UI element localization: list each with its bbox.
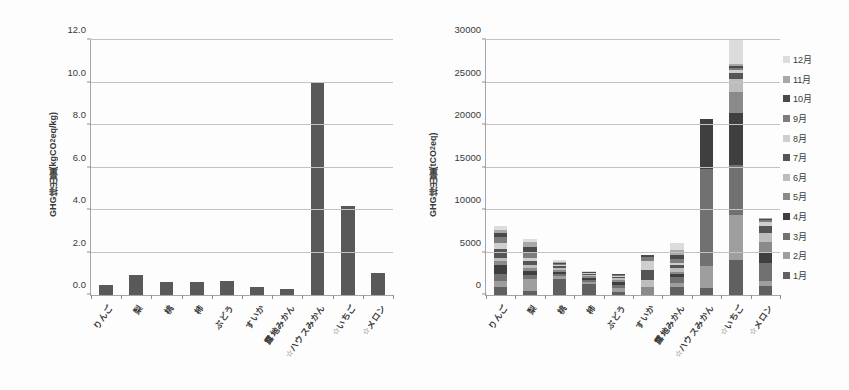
right-segment-1月[interactable] [729,260,743,295]
right-bar-slot[interactable] [545,40,574,295]
left-bar-slot[interactable] [333,40,363,295]
right-segment-8月[interactable] [641,261,655,269]
right-bar-slot[interactable] [633,40,662,295]
month-legend-item-5月[interactable]: 5月 [783,187,812,207]
right-bar-柿[interactable] [582,271,596,295]
right-segment-2月[interactable] [700,266,714,288]
right-bar-桃[interactable] [553,260,567,295]
left-bar-りんご[interactable] [99,285,113,295]
right-segment-1月[interactable] [670,287,684,295]
left-bar-☆いちご[interactable] [341,206,355,295]
right-segment-2月[interactable] [729,215,743,260]
left-bar-ぶどう[interactable] [220,281,234,295]
left-xlabel-りんご: りんご [90,302,115,331]
right-segment-1月[interactable] [582,284,596,295]
left-ytick-label: 10.0 [68,66,87,77]
right-bar-slot[interactable] [692,40,721,295]
left-bar-slot[interactable] [242,40,272,295]
left-xlabel-梨: 梨 [130,302,145,316]
right-gridline [486,209,780,210]
right-segment-3月[interactable] [729,165,743,215]
right-segment-1月[interactable] [553,279,567,295]
right-bar-slot[interactable] [515,40,544,295]
right-segment-12月[interactable] [729,39,743,64]
month-legend-item-10月[interactable]: 10月 [783,89,812,109]
right-segment-7月[interactable] [494,249,508,257]
right-segment-3月[interactable] [494,274,508,282]
month-legend-item-9月[interactable]: 9月 [783,109,812,129]
left-bar-☆メロン[interactable] [371,273,385,295]
left-gridline [91,167,393,168]
left-bar-slot[interactable] [182,40,212,295]
month-legend-item-4月[interactable]: 4月 [783,207,812,227]
right-bar-slot[interactable] [574,40,603,295]
left-ytick-mark [87,209,91,210]
month-legend-label: 4月 [793,210,807,223]
left-ytick-label: 8.0 [73,109,86,120]
right-xtick-mark [721,295,722,299]
right-segment-4月[interactable] [729,113,743,165]
month-legend-item-11月[interactable]: 11月 [783,70,812,90]
right-bar-ぶどう[interactable] [612,273,626,295]
right-bar-slot[interactable] [721,40,750,295]
month-legend-item-3月[interactable]: 3月 [783,226,812,246]
month-legend-item-7月[interactable]: 7月 [783,148,812,168]
month-legend-swatch-icon [783,95,790,102]
month-legend-item-2月[interactable]: 2月 [783,246,812,266]
right-bar-☆メロン[interactable] [759,218,773,295]
month-legend-item-1月[interactable]: 1月 [783,266,812,286]
right-bar-slot[interactable] [662,40,691,295]
left-bar-slot[interactable] [212,40,242,295]
right-segment-4月[interactable] [700,119,714,169]
left-bar-桃[interactable] [160,282,174,295]
right-bar-slot[interactable] [751,40,780,295]
right-segment-7月[interactable] [759,226,773,233]
left-bar-slot[interactable] [363,40,393,295]
right-segment-4月[interactable] [759,253,773,263]
left-bar-slot[interactable] [272,40,302,295]
left-bar-slot[interactable] [151,40,181,295]
right-segment-1月[interactable] [612,292,626,295]
left-bar-☆ハウスみかん[interactable] [311,83,325,296]
right-bar-りんご[interactable] [494,226,508,295]
left-ytick-mark [87,166,91,167]
right-gridline [486,82,780,83]
left-bar-slot[interactable] [121,40,151,295]
left-ytick-mark [87,124,91,125]
right-bar-梨[interactable] [523,239,537,295]
month-legend-item-8月[interactable]: 8月 [783,128,812,148]
month-legend-item-6月[interactable]: 6月 [783,168,812,188]
right-ytick-label: 0 [476,279,481,290]
right-segment-1月[interactable] [523,291,537,295]
right-bar-すいか[interactable] [641,255,655,295]
left-ytick-mark [87,39,91,40]
left-xtick-mark [302,295,303,299]
right-segment-5月[interactable] [641,287,655,295]
right-segment-6月[interactable] [759,233,773,242]
left-bar-梨[interactable] [129,275,143,295]
right-segment-1月[interactable] [759,286,773,295]
right-ytick-label: 30000 [455,24,481,35]
right-bar-slot[interactable] [486,40,515,295]
right-segment-1月[interactable] [494,287,508,295]
right-segment-3月[interactable] [759,263,773,281]
left-bar-すいか[interactable] [250,287,264,296]
right-bar-slot[interactable] [604,40,633,295]
month-legend-item-12月[interactable]: 12月 [783,50,812,70]
right-xtick-mark [545,295,546,299]
right-xlabel-柿: 柿 [583,302,598,316]
right-segment-2月[interactable] [523,279,537,291]
left-ytick-label: 6.0 [73,151,86,162]
right-segment-1月[interactable] [700,288,714,295]
right-segment-4月[interactable] [494,265,508,273]
right-ytick-mark [482,39,486,40]
right-bar-☆ハウスみかん[interactable] [700,119,714,295]
left-bar-露地みかん[interactable] [280,289,294,295]
left-bar-slot[interactable] [302,40,332,295]
right-segment-6月[interactable] [641,280,655,288]
right-segment-12月[interactable] [670,243,684,250]
left-bar-柿[interactable] [190,282,204,295]
left-bar-slot[interactable] [91,40,121,295]
right-segment-5月[interactable] [729,92,743,113]
right-segment-7月[interactable] [641,270,655,280]
